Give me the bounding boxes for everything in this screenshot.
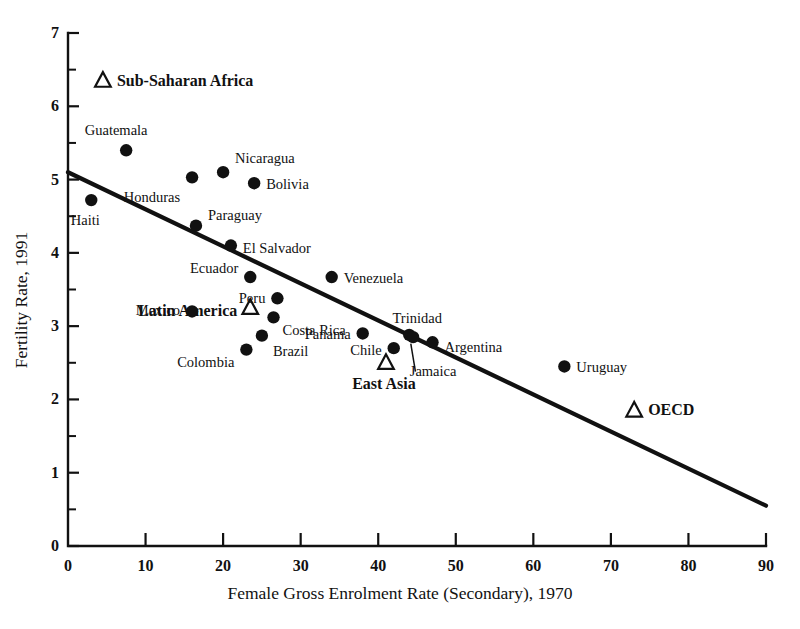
marker-dot-jamaica bbox=[407, 331, 419, 343]
point-label-oecd: OECD bbox=[648, 402, 694, 418]
marker-dot-guatemala bbox=[120, 144, 132, 156]
y-tick-label-6: 6 bbox=[51, 98, 59, 114]
marker-triangle-oecd bbox=[626, 402, 642, 417]
marker-dot-costa-rica bbox=[267, 311, 279, 323]
marker-dot-panama bbox=[357, 327, 369, 339]
point-label-jamaica: Jamaica bbox=[410, 364, 457, 379]
y-axis-title: Fertility Rate, 1991 bbox=[13, 232, 31, 369]
y-tick-label-4: 4 bbox=[51, 245, 59, 261]
y-tick-label-1: 1 bbox=[51, 465, 59, 481]
marker-dot-bolivia bbox=[248, 177, 260, 189]
point-label-uruguay: Uruguay bbox=[576, 360, 627, 375]
x-tick-label-10: 10 bbox=[138, 558, 154, 574]
y-tick-label-3: 3 bbox=[51, 318, 59, 334]
point-label-guatemala: Guatemala bbox=[85, 123, 148, 138]
point-label-el-salvador: El Salvador bbox=[243, 240, 311, 255]
point-label-colombia: Colombia bbox=[177, 354, 234, 369]
point-label-haiti: Haiti bbox=[71, 213, 100, 228]
fertility-enrolment-scatter-chart: 010203040506070809001234567 HaitiGuatema… bbox=[0, 0, 800, 629]
x-axis-title: Female Gross Enrolment Rate (Secondary),… bbox=[227, 585, 572, 603]
point-label-chile: Chile bbox=[350, 343, 381, 358]
y-tick-label-2: 2 bbox=[51, 391, 59, 407]
point-label-sub-saharan-africa: Sub-Saharan Africa bbox=[117, 73, 253, 89]
point-label-ecuador: Ecuador bbox=[190, 261, 238, 276]
marker-dot-paraguay bbox=[190, 220, 202, 232]
point-label-nicaragua: Nicaragua bbox=[235, 151, 295, 166]
marker-dot-honduras bbox=[186, 171, 198, 183]
marker-dot-peru bbox=[271, 292, 283, 304]
y-tick-label-7: 7 bbox=[51, 25, 59, 41]
point-label-brazil: Brazil bbox=[273, 343, 308, 358]
point-label-east-asia: East Asia bbox=[352, 376, 416, 392]
marker-dot-venezuela bbox=[325, 271, 337, 283]
marker-dot-haiti bbox=[85, 194, 97, 206]
marker-triangle-sub-saharan-africa bbox=[95, 72, 111, 87]
point-label-bolivia: Bolivia bbox=[266, 177, 309, 192]
point-label-peru: Peru bbox=[239, 291, 266, 306]
marker-dot-colombia bbox=[240, 343, 252, 355]
point-label-panama: Panama bbox=[305, 327, 351, 342]
point-label-trinidad: Trinidad bbox=[393, 311, 442, 326]
x-tick-label-90: 90 bbox=[758, 558, 774, 574]
point-label-honduras: Honduras bbox=[124, 190, 180, 205]
marker-dot-chile bbox=[388, 342, 400, 354]
marker-dot-argentina bbox=[426, 336, 438, 348]
x-tick-label-80: 80 bbox=[680, 558, 696, 574]
marker-dot-ecuador bbox=[244, 271, 256, 283]
point-label-venezuela: Venezuela bbox=[344, 271, 404, 286]
y-tick-label-5: 5 bbox=[51, 172, 59, 188]
marker-dot-brazil bbox=[256, 329, 268, 341]
marker-dot-el-salvador bbox=[225, 239, 237, 251]
y-tick-label-0: 0 bbox=[51, 538, 59, 554]
point-label-paraguay: Paraguay bbox=[208, 207, 262, 222]
marker-dot-uruguay bbox=[558, 360, 570, 372]
x-tick-label-70: 70 bbox=[603, 558, 619, 574]
x-tick-label-30: 30 bbox=[293, 558, 309, 574]
x-tick-label-50: 50 bbox=[448, 558, 464, 574]
marker-dot-nicaragua bbox=[217, 166, 229, 178]
x-tick-label-40: 40 bbox=[370, 558, 386, 574]
x-tick-label-60: 60 bbox=[525, 558, 541, 574]
axis-spines bbox=[68, 33, 766, 546]
point-label-argentina: Argentina bbox=[445, 340, 503, 355]
point-label-latin-america: Latin America bbox=[138, 303, 237, 319]
x-tick-label-20: 20 bbox=[215, 558, 231, 574]
x-tick-label-0: 0 bbox=[64, 558, 72, 574]
